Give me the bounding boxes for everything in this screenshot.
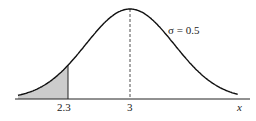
x-axis-label: x — [237, 101, 242, 113]
sigma-annotation: σ = 0.5 — [168, 24, 199, 36]
tick-label-2-3: 2.3 — [57, 101, 71, 113]
tick-label-mean: 3 — [127, 101, 133, 113]
